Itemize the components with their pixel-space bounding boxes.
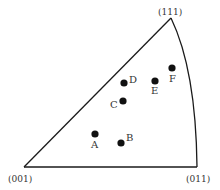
data-point-c: C <box>110 97 127 110</box>
data-point-b: B <box>117 132 133 147</box>
triangle-arc-111-011 <box>171 18 197 167</box>
point-label-d: D <box>129 74 137 85</box>
point-label-c: C <box>110 99 118 110</box>
vertex-label-011: (011) <box>186 174 210 184</box>
data-point-a: A <box>90 130 99 150</box>
data-point-e: E <box>151 77 159 96</box>
point-label-b: B <box>126 132 133 143</box>
vertex-label-111: (111) <box>158 7 182 17</box>
point-label-a: A <box>90 139 99 150</box>
point-label-e: E <box>151 85 158 96</box>
data-point-f: F <box>168 64 176 84</box>
stereographic-triangle-diagram: (001) (011) (111) A B C D E F <box>0 0 220 190</box>
vertex-label-001: (001) <box>8 174 32 184</box>
data-point-d: D <box>120 74 137 87</box>
point-label-f: F <box>169 73 176 84</box>
